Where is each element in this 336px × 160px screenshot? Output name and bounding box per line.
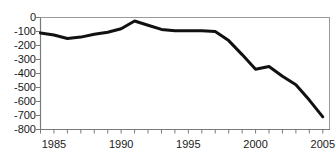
x-axis-tick-label: 1985 — [42, 139, 66, 150]
x-axis-tick-label: 2000 — [243, 139, 267, 150]
x-axis-tick-label: 2005 — [311, 139, 335, 150]
x-axis-tick-label: 1995 — [176, 139, 200, 150]
x-axis-labels: 19851990199520002005 — [0, 0, 336, 160]
line-chart: 0-100-200-300-400-500-600-700-800 198519… — [0, 0, 336, 160]
x-axis-tick-label: 1990 — [109, 139, 133, 150]
